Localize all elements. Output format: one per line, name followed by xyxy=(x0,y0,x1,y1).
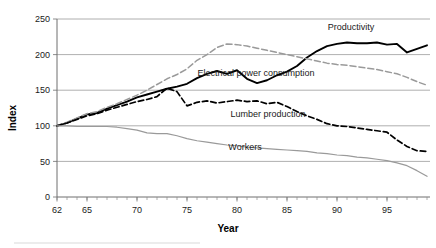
line-chart: 050100150200250 6265707580859095 Product… xyxy=(0,0,436,248)
y-tick-label: 150 xyxy=(35,85,50,95)
y-tick-labels-group: 050100150200250 xyxy=(35,14,50,202)
y-axis-title: Index xyxy=(7,105,18,132)
x-tick-label: 70 xyxy=(132,205,142,215)
x-tick-label: 65 xyxy=(82,205,92,215)
series-label-lumber-production: Lumber production xyxy=(230,109,305,119)
y-tick-label: 100 xyxy=(35,121,50,131)
y-tick-label: 200 xyxy=(35,50,50,60)
x-tick-labels-group: 6265707580859095 xyxy=(52,205,392,215)
x-tick-label: 75 xyxy=(182,205,192,215)
x-tick-label: 90 xyxy=(332,205,342,215)
series-label-workers: Workers xyxy=(228,142,262,152)
x-tick-label: 80 xyxy=(232,205,242,215)
x-tick-label: 85 xyxy=(282,205,292,215)
y-tick-label: 0 xyxy=(45,192,50,202)
x-axis-title: Year xyxy=(217,223,238,234)
x-tick-label: 62 xyxy=(52,205,62,215)
x-tick-label: 95 xyxy=(382,205,392,215)
series-label-electrical-power-consumption: Electrical power consumption xyxy=(197,68,314,78)
series-labels-group: ProductivityElectrical power consumption… xyxy=(197,22,374,152)
chart-figure: 050100150200250 6265707580859095 Product… xyxy=(0,0,436,248)
y-tick-label: 50 xyxy=(40,157,50,167)
series-label-productivity: Productivity xyxy=(328,22,375,32)
y-tick-label: 250 xyxy=(35,14,50,24)
